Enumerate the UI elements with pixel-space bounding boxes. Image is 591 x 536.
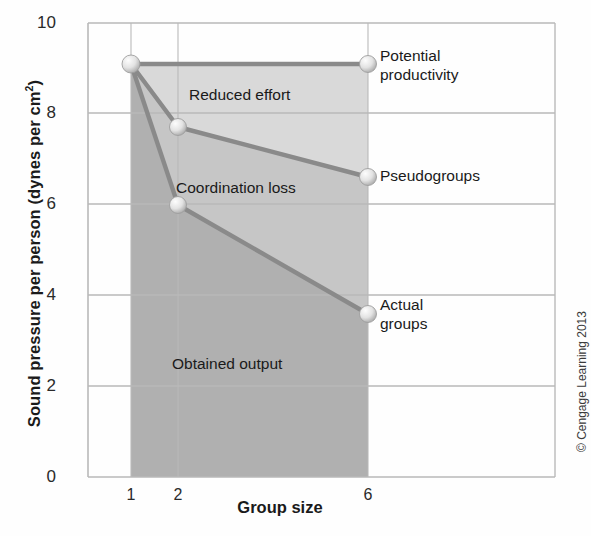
copyright-notice: © Cengage Learning 2013: [575, 311, 589, 452]
data-marker-pseudo-x6: [360, 169, 377, 186]
y-tick-label-8: 8: [22, 103, 56, 123]
series-label-actual-line2: groups: [380, 315, 427, 332]
series-label-potential-line2: productivity: [380, 66, 458, 83]
chart-figure: Sound pressure per person (dynes per cm2…: [0, 0, 591, 536]
series-label-pseudogroups: Pseudogroups: [380, 167, 480, 186]
y-tick-label-2: 2: [22, 376, 56, 396]
data-marker-pseudo-x2: [170, 119, 187, 136]
y-tick-label-10: 10: [22, 13, 56, 33]
y-tick-label-6: 6: [22, 194, 56, 214]
y-axis-title-paren: ): [25, 80, 43, 86]
region-reduced-effort: [131, 64, 368, 177]
series-line-pseudogroups: [131, 64, 368, 177]
series-label-actual-line1: Actual: [380, 296, 423, 313]
data-marker-origin: [122, 55, 140, 73]
x-tick-label-1: 1: [111, 486, 151, 504]
data-marker-actual-x6: [360, 306, 377, 323]
y-axis-title-superscript: 2: [23, 85, 35, 91]
series-label-potential-line1: Potential: [380, 47, 440, 64]
annotation-reduced-effort: Reduced effort: [189, 86, 290, 104]
y-axis-title: Sound pressure per person (dynes per cm2…: [25, 34, 44, 474]
series-label-potential-productivity: Potential productivity: [380, 47, 458, 85]
annotation-obtained-output: Obtained output: [172, 355, 282, 373]
series-label-actual-groups: Actual groups: [380, 296, 427, 334]
data-marker-potential-x6: [360, 56, 377, 73]
series-label-pseudogroups-line1: Pseudogroups: [380, 167, 480, 184]
x-axis-title: Group size: [180, 498, 380, 517]
plot-canvas: [0, 0, 591, 536]
data-marker-actual-x2: [170, 197, 187, 214]
y-tick-label-4: 4: [22, 285, 56, 305]
annotation-coordination-loss: Coordination loss: [176, 179, 296, 197]
region-obtained-output: [131, 64, 368, 477]
y-tick-label-0: 0: [22, 467, 56, 487]
